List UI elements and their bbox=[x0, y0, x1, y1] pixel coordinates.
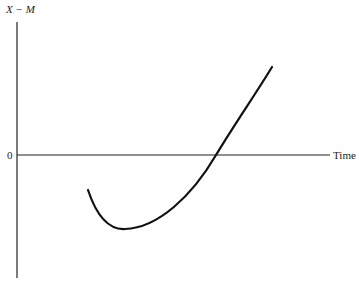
chart-canvas bbox=[0, 0, 359, 286]
x-axis-label: Time bbox=[333, 149, 356, 161]
y-axis-label: X − M bbox=[6, 3, 35, 15]
j-curve bbox=[88, 67, 272, 229]
y-tick-zero: 0 bbox=[7, 149, 13, 161]
